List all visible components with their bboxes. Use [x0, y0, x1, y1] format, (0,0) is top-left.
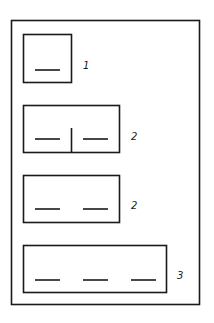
slot-count-label: 3 — [177, 270, 183, 281]
group-box-2: 2 — [24, 106, 138, 153]
slot-count-label: 2 — [131, 131, 137, 142]
slot-box — [24, 246, 167, 293]
slot-count-label: 2 — [131, 200, 137, 211]
group-box-3: 2 — [24, 176, 138, 223]
group-box-4: 3 — [24, 246, 184, 293]
group-box-1: 1 — [24, 35, 90, 83]
slot-count-label: 1 — [83, 60, 89, 71]
slot-box — [24, 35, 72, 83]
diagram-canvas: 1 2 2 3 — [0, 0, 214, 323]
outer-frame — [12, 21, 200, 305]
slot-box — [24, 176, 120, 223]
